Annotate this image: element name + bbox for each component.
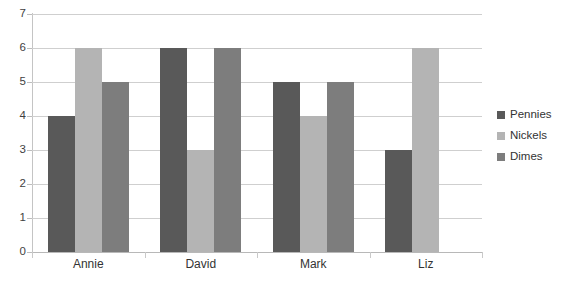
legend-item-dimes[interactable]: Dimes — [497, 146, 552, 167]
gridline-7 — [32, 14, 482, 15]
legend-item-pennies[interactable]: Pennies — [497, 104, 552, 125]
legend: PenniesNickelsDimes — [497, 104, 552, 167]
bar-mark-dimes — [327, 82, 354, 252]
y-axis-label-3: 3 — [6, 144, 26, 156]
bar-mark-pennies — [273, 82, 300, 252]
x-axis-label-david: David — [145, 258, 258, 270]
y-axis-label-0: 0 — [6, 246, 26, 258]
x-axis-label-mark: Mark — [257, 258, 370, 270]
bar-liz-pennies — [385, 150, 412, 252]
bar-annie-dimes — [102, 82, 129, 252]
legend-label: Pennies — [510, 109, 552, 121]
bar-liz-nickels — [412, 48, 439, 252]
plot-area — [32, 14, 482, 252]
y-axis-label-2: 2 — [6, 178, 26, 190]
y-axis-label-7: 7 — [6, 8, 26, 20]
x-axis-separator-1 — [145, 252, 146, 258]
x-axis-label-annie: Annie — [32, 258, 145, 270]
bar-david-pennies — [160, 48, 187, 252]
bar-annie-nickels — [75, 48, 102, 252]
legend-swatch-icon-pennies — [497, 111, 505, 119]
legend-label: Dimes — [510, 151, 543, 163]
legend-swatch-icon-nickels — [497, 132, 505, 140]
y-axis-label-1: 1 — [6, 212, 26, 224]
bar-mark-nickels — [300, 116, 327, 252]
legend-swatch-icon-dimes — [497, 153, 505, 161]
legend-label: Nickels — [510, 130, 547, 142]
x-axis-separator-4 — [482, 252, 483, 258]
bar-david-nickels — [187, 150, 214, 252]
x-axis-separator-3 — [370, 252, 371, 258]
bar-david-dimes — [214, 48, 241, 252]
x-axis-label-liz: Liz — [370, 258, 483, 270]
x-axis-separator-0 — [32, 252, 33, 258]
bar-annie-pennies — [48, 116, 75, 252]
y-axis-label-6: 6 — [6, 42, 26, 54]
clipped-title-strip — [0, 0, 562, 7]
x-axis-separator-2 — [257, 252, 258, 258]
legend-item-nickels[interactable]: Nickels — [497, 125, 552, 146]
y-axis-label-5: 5 — [6, 76, 26, 88]
bar-chart: 01234567 AnnieDavidMarkLiz PenniesNickel… — [0, 0, 562, 281]
y-axis-label-4: 4 — [6, 110, 26, 122]
